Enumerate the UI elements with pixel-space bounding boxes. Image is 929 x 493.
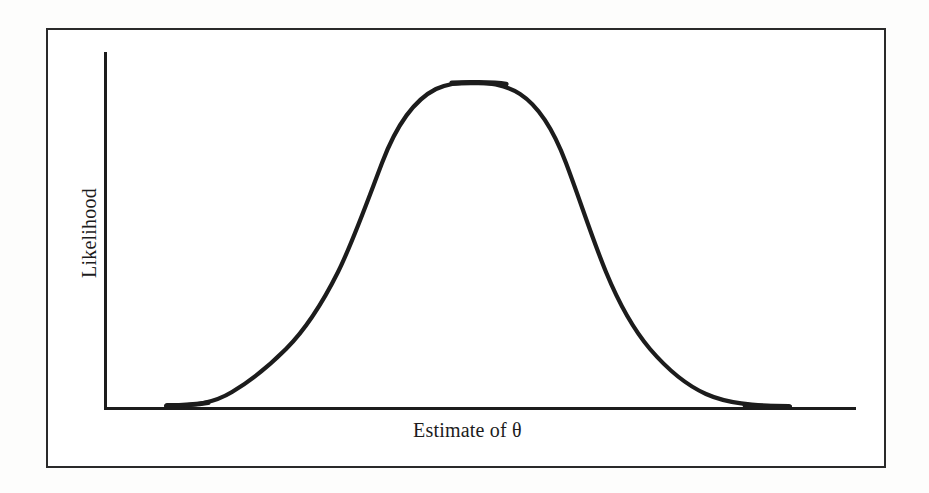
figure-root: Estimate of θ Likelihood bbox=[0, 0, 929, 493]
figure-outer-frame bbox=[46, 28, 886, 468]
x-axis-title: Estimate of θ bbox=[0, 418, 929, 442]
y-axis-title-container: Likelihood bbox=[58, 168, 120, 298]
y-axis-title: Likelihood bbox=[78, 188, 100, 278]
